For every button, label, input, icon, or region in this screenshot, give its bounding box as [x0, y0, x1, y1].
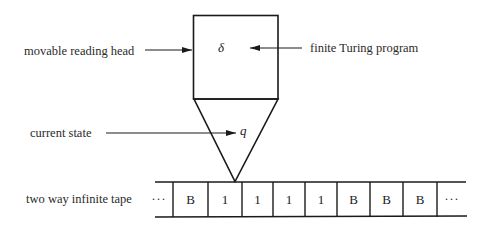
tape-cell-4: 1	[305, 182, 337, 217]
turing-machine-diagram: movable reading head finite Turing progr…	[0, 0, 489, 229]
tape-cell-6: B	[370, 182, 403, 217]
tape-cell-7: B	[403, 182, 437, 217]
tape-left-ellipsis: ···	[145, 182, 173, 217]
tape-cell-3: 1	[273, 182, 305, 217]
tape-cell-2: 1	[242, 182, 273, 217]
reading-head-label: movable reading head	[24, 44, 134, 58]
tape-cell-1: 1	[208, 182, 242, 217]
tape-cell-5: B	[337, 182, 370, 217]
state-label: current state	[30, 126, 91, 140]
program-box	[194, 16, 279, 100]
reading-head-triangle	[194, 99, 278, 182]
program-label: finite Turing program	[310, 41, 418, 55]
tape-label: two way infinite tape	[26, 192, 132, 206]
state-symbol-q: q	[240, 124, 247, 138]
tape-cell-0: B	[173, 182, 208, 217]
tape-right-ellipsis: ···	[437, 182, 467, 217]
program-symbol-delta: δ	[218, 41, 224, 55]
